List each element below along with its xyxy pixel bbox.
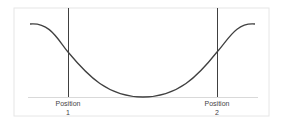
position-2-label: Position 2 — [197, 99, 237, 117]
position-2-label-number: 2 — [197, 108, 237, 117]
position-1-label-text: Position — [48, 99, 88, 108]
curve-line — [30, 24, 255, 97]
position-1-label-number: 1 — [48, 108, 88, 117]
chart-canvas — [0, 0, 286, 125]
position-1-label: Position 1 — [48, 99, 88, 117]
position-2-label-text: Position — [197, 99, 237, 108]
